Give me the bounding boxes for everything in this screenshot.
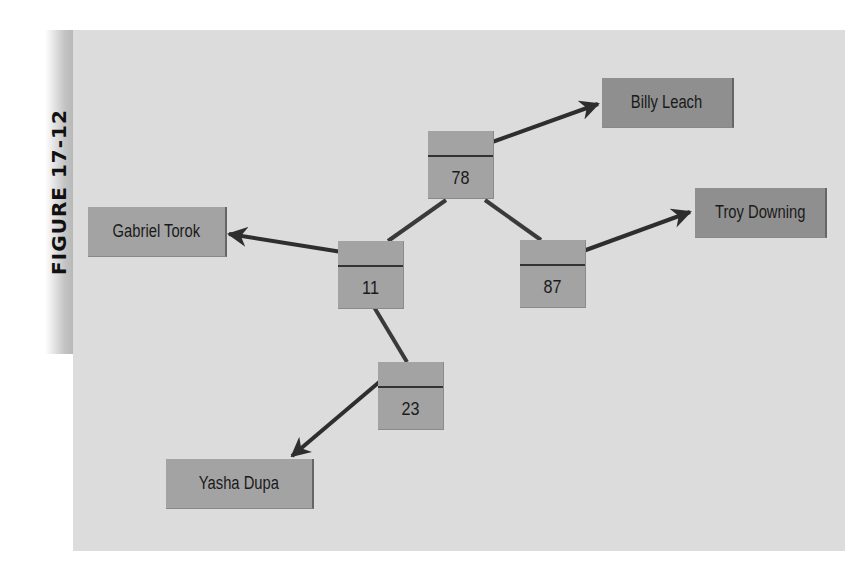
label-troy-downing: Troy Downing xyxy=(695,188,827,238)
node-pointer-field xyxy=(378,362,443,388)
node-pointer-field xyxy=(428,131,493,157)
edge-78-11 xyxy=(388,200,446,241)
pointer-78-billy xyxy=(484,104,598,145)
label-text: Gabriel Torok xyxy=(113,221,201,242)
node-pointer-field xyxy=(338,241,403,267)
pointer-23-yasha xyxy=(292,378,384,456)
node-key: 78 xyxy=(433,157,488,199)
node-pointer-field xyxy=(520,240,585,266)
tree-node-11: 11 xyxy=(338,241,404,309)
node-key: 23 xyxy=(383,388,438,430)
label-billy-leach: Billy Leach xyxy=(602,78,734,128)
pointer-11-gabriel xyxy=(229,234,348,253)
edge-78-87 xyxy=(485,200,541,240)
node-key: 87 xyxy=(525,266,580,308)
edge-11-23 xyxy=(374,307,407,362)
pointer-87-troy xyxy=(575,212,690,254)
tree-node-78: 78 xyxy=(428,131,494,199)
tree-node-23: 23 xyxy=(378,362,444,430)
tree-node-87: 87 xyxy=(520,240,586,308)
label-gabriel-torok: Gabriel Torok xyxy=(88,207,227,257)
node-key: 11 xyxy=(343,267,398,309)
label-yasha-dupa: Yasha Dupa xyxy=(166,459,314,509)
label-text: Troy Downing xyxy=(715,202,806,223)
label-text: Yasha Dupa xyxy=(199,473,279,494)
label-text: Billy Leach xyxy=(631,92,702,113)
